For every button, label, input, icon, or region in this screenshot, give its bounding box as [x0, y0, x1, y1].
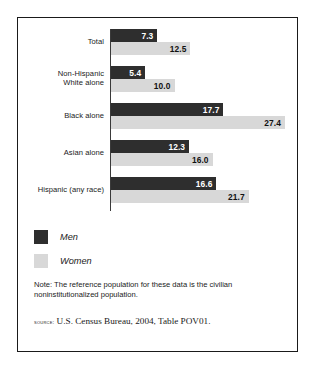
legend-label: Women	[60, 256, 92, 266]
category-label-line: Total	[24, 37, 104, 46]
bar-women: 16.0	[111, 153, 213, 166]
bar-value-label: 27.4	[264, 118, 285, 128]
legend-item-men: Men	[34, 225, 284, 249]
source-label: Source:	[34, 318, 55, 325]
category-label: Total	[24, 37, 110, 46]
source-text: U.S. Census Bureau, 2004, Table POV01.	[57, 316, 211, 326]
bar-men: 5.4	[111, 66, 145, 79]
legend-swatch-icon	[34, 230, 48, 244]
bar-women: 27.4	[111, 116, 285, 129]
category-label: Hispanic (any race)	[24, 185, 110, 194]
bar-women: 21.7	[111, 190, 249, 203]
category-label-line: Asian alone	[24, 148, 104, 157]
category-label: Asian alone	[24, 148, 110, 157]
bar-value-label: 21.7	[228, 192, 249, 202]
bar-pair: 5.4 10.0	[111, 66, 299, 92]
bar-men: 16.6	[111, 177, 216, 190]
bar-value-label: 16.0	[192, 155, 213, 165]
bar-group: Hispanic (any race) 16.6 21.7	[18, 177, 299, 203]
bar-value-label: 17.7	[203, 105, 224, 115]
bar-value-label: 12.5	[170, 44, 191, 54]
bar-value-label: 10.0	[154, 81, 175, 91]
bar-group: Black alone 17.7 27.4	[18, 103, 299, 129]
bar-pair: 17.7 27.4	[111, 103, 299, 129]
bar-value-label: 7.3	[141, 31, 157, 41]
bar-group: Total 7.3 12.5	[18, 29, 299, 55]
bar-group: Asian alone 12.3 16.0	[18, 140, 299, 166]
legend-label: Men	[60, 232, 78, 242]
category-label: Black alone	[24, 111, 110, 120]
category-label-line: Non-Hispanic	[24, 69, 104, 78]
legend-item-women: Women	[34, 249, 284, 273]
bar-value-label: 12.3	[168, 142, 189, 152]
figure-note: Note: The reference population for these…	[34, 280, 282, 301]
bar-group: Non-Hispanic White alone 5.4 10.0	[18, 66, 299, 92]
bar-pair: 12.3 16.0	[111, 140, 299, 166]
bar-value-label: 16.6	[196, 179, 217, 189]
category-label-line: Hispanic (any race)	[24, 185, 104, 194]
legend-swatch-icon	[34, 254, 48, 268]
bar-pair: 7.3 12.5	[111, 29, 299, 55]
bar-men: 7.3	[111, 29, 157, 42]
category-label-line: Black alone	[24, 111, 104, 120]
bar-women: 12.5	[111, 42, 190, 55]
bar-value-label: 5.4	[129, 68, 145, 78]
figure-frame: Total 7.3 12.5 Non-Hispanic White alone …	[17, 17, 298, 352]
bar-pair: 16.6 21.7	[111, 177, 299, 203]
chart-plot-area: Total 7.3 12.5 Non-Hispanic White alone …	[18, 29, 299, 215]
bar-women: 10.0	[111, 79, 175, 92]
category-label: Non-Hispanic White alone	[24, 69, 110, 87]
category-label-line: White alone	[24, 78, 104, 87]
chart-legend: Men Women	[34, 225, 284, 273]
figure-source: Source:U.S. Census Bureau, 2004, Table P…	[34, 310, 286, 328]
bar-men: 12.3	[111, 140, 189, 153]
bar-men: 17.7	[111, 103, 223, 116]
